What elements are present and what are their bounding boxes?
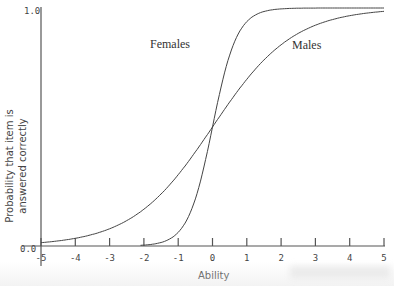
males-curve <box>41 11 384 242</box>
y-tick-top: 1.0 <box>24 6 40 16</box>
x-ticks: -5-4-3-2-1012345 <box>36 238 387 263</box>
y-tick-bottom: 0.0 <box>20 244 36 254</box>
y-axis-title-line2: answered correctly <box>17 118 28 213</box>
scan-artifact-blur <box>290 266 390 278</box>
females-label: Females <box>150 37 190 51</box>
y-axis-title-line1: Probability that item is <box>4 109 15 222</box>
irt-chart: -5-4-3-2-1012345 1.0 0.0 Females Males A… <box>0 0 394 286</box>
y-axis-title: Probability that item is answered correc… <box>4 109 28 222</box>
males-label: Males <box>292 38 322 52</box>
